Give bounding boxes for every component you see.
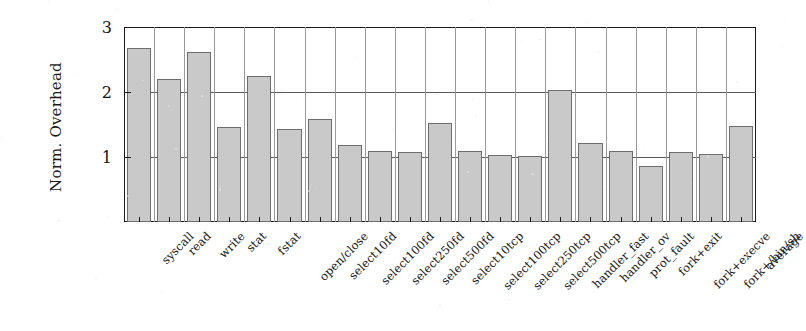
paper-speckle [116,9,118,11]
paper-speckle [161,291,162,294]
paper-speckle [77,71,78,73]
x-tick-mark-7 [350,217,351,222]
bar-fork-exit [639,166,663,222]
gridline-x-2 [184,27,185,222]
gridline-x-4 [244,27,245,222]
x-tick-mark-4 [259,217,260,222]
gridline-x-9 [395,27,396,222]
x-tick-mark-13 [530,217,531,222]
gridline-y-2 [124,92,756,93]
bar-open-close [277,129,301,222]
gridline-x-8 [365,27,366,222]
gridline-x-19 [696,27,697,222]
paper-speckle [246,226,247,229]
gridline-x-3 [214,27,215,222]
gridline-x-5 [274,27,275,222]
gridline-x-1 [154,27,155,222]
gridline-x-10 [425,27,426,222]
paper-speckle [1,137,2,140]
x-tick-mark-14 [560,217,561,222]
bar-read [157,79,181,222]
y-tick-label-3: 3 [78,18,112,37]
bar-select10fd [308,119,332,222]
bar-syscall [127,48,151,222]
gridline-x-6 [305,27,306,222]
gridline-x-18 [666,27,667,222]
x-tick-mark-16 [621,217,622,222]
x-tick-label-stat: stat [244,229,270,255]
paper-speckle [488,0,489,3]
gridline-x-13 [515,27,516,222]
paper-speckle [784,19,786,20]
gridline-x-15 [575,27,576,222]
x-tick-mark-8 [380,217,381,222]
gridline-x-11 [455,27,456,222]
bar-stat [217,127,241,222]
bar-prot-fault [609,151,633,223]
x-tick-mark-0 [139,217,140,222]
bar-select500fd [398,152,422,222]
paper-speckle [586,21,588,23]
bar-select250tcp [488,155,512,222]
x-tick-mark-3 [229,217,230,222]
bar-handler-ov [578,143,602,222]
x-tick-mark-18 [681,217,682,222]
bar-select100fd [338,145,362,222]
bar-fork-execve [669,152,693,222]
paper-speckle [508,299,511,300]
paper-speckle [49,322,50,323]
x-tick-mark-6 [320,217,321,222]
x-tick-mark-17 [651,217,652,222]
y-tick-mark-3 [124,27,131,28]
x-tick-mark-2 [199,217,200,222]
x-tick-mark-10 [440,217,441,222]
bar-handler-fast [548,90,572,222]
y-tick-mark-2 [124,92,131,93]
y-axis-title: Norm. Overhead [47,27,65,227]
x-tick-mark-1 [169,217,170,222]
paper-speckle [59,325,60,326]
y-tick-mark-1 [124,157,131,158]
x-tick-mark-20 [741,217,742,222]
plot-area [124,27,756,222]
paper-speckle [29,111,30,113]
paper-speckle [470,19,473,21]
y-tick-label-1: 1 [78,148,112,167]
bar-select500tcp [518,156,542,222]
paper-speckle [95,277,97,279]
bar-select100tcp [458,151,482,223]
gridline-x-17 [636,27,637,222]
x-tick-mark-5 [290,217,291,222]
bar-fstat [247,76,271,222]
bar-write [187,52,211,222]
bar-select10tcp [428,123,452,222]
y-tick-label-2: 2 [78,83,112,102]
gridline-x-14 [545,27,546,222]
gridline-x-7 [335,27,336,222]
gridline-x-12 [485,27,486,222]
paper-speckle [267,243,270,246]
paper-speckle [48,0,49,2]
x-tick-mark-15 [590,217,591,222]
paper-speckle [439,304,441,307]
x-tick-label-fstat: fstat [275,229,304,258]
bar-select250fd [368,151,392,222]
x-tick-mark-9 [410,217,411,222]
paper-speckle [108,216,111,217]
paper-speckle [782,46,783,47]
x-tick-mark-19 [711,217,712,222]
x-tick-mark-12 [500,217,501,222]
gridline-x-20 [726,27,727,222]
gridline-x-16 [606,27,607,222]
bar-fork-bin-sh [699,154,723,222]
paper-speckle [570,318,571,319]
x-tick-mark-11 [470,217,471,222]
bar-average [729,126,753,222]
